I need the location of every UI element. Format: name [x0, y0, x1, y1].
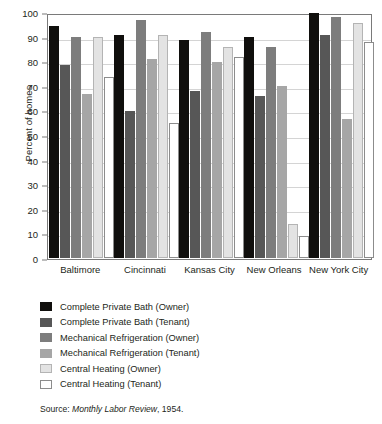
y-axis-tick-label: 30 — [27, 181, 38, 191]
legend-swatch — [40, 318, 52, 327]
legend-item: Complete Private Bath (Owner) — [40, 299, 320, 315]
bar — [158, 35, 168, 258]
bar-group — [49, 15, 114, 258]
bar — [179, 40, 189, 258]
source-suffix: , 1954. — [157, 404, 183, 414]
bar — [60, 65, 70, 258]
bar-group — [179, 15, 244, 258]
bar — [49, 26, 59, 258]
bar — [93, 37, 103, 258]
bar — [277, 86, 287, 258]
bar — [201, 32, 211, 258]
legend-label: Mechanical Refrigeration (Tenant) — [60, 348, 200, 358]
bar — [125, 111, 135, 258]
legend-item: Complete Private Bath (Tenant) — [40, 315, 320, 331]
legend-swatch — [40, 364, 52, 373]
y-axis-tick-label: 10 — [27, 231, 38, 241]
source-publication: Monthly Labor Review — [72, 404, 157, 414]
legend-swatch — [40, 380, 52, 389]
legend-swatch — [40, 349, 52, 358]
legend-label: Complete Private Bath (Owner) — [60, 302, 189, 312]
bar — [147, 59, 157, 258]
bar — [223, 47, 233, 258]
bar — [309, 13, 319, 258]
x-axis-tick-label: Baltimore — [49, 264, 111, 292]
bar — [353, 23, 363, 258]
legend-item: Mechanical Refrigeration (Owner) — [40, 330, 320, 346]
bar — [299, 236, 309, 258]
y-axis-tick-labels: 0102030405060708090100 — [0, 14, 47, 260]
x-axis-tick-labels: BaltimoreCincinnatiKansas CityNew Orlean… — [48, 264, 371, 292]
y-axis-tick-label: 90 — [27, 34, 38, 44]
y-axis-tick-label: 70 — [27, 83, 38, 93]
bar-chart: Percent of homes 0102030405060708090100 … — [0, 0, 382, 292]
y-axis-tick-label: 40 — [27, 157, 38, 167]
bar — [320, 35, 330, 258]
x-axis-tick-label: Cincinnati — [114, 264, 176, 292]
bar — [288, 224, 298, 258]
legend-swatch — [40, 302, 52, 311]
bar — [342, 119, 352, 258]
bar — [364, 42, 374, 258]
bar — [234, 57, 244, 258]
bar-group — [309, 15, 374, 258]
bar-group — [114, 15, 179, 258]
bar-groups — [49, 15, 370, 258]
y-axis-tick-label: 80 — [27, 58, 38, 68]
legend-item: Mechanical Refrigeration (Tenant) — [40, 346, 320, 362]
bar — [244, 37, 254, 258]
source-prefix: Source: — [40, 404, 72, 414]
bar — [114, 35, 124, 258]
x-axis-tick-label: New York City — [308, 264, 370, 292]
legend-label: Central Heating (Owner) — [60, 364, 161, 374]
source-note: Source: Monthly Labor Review, 1954. — [40, 404, 183, 414]
bar — [255, 96, 265, 258]
legend-label: Complete Private Bath (Tenant) — [60, 317, 190, 327]
legend-item: Central Heating (Tenant) — [40, 377, 320, 393]
legend: Complete Private Bath (Owner)Complete Pr… — [40, 299, 320, 392]
x-axis-tick-label: New Orleans — [243, 264, 305, 292]
bar — [212, 62, 222, 258]
bar — [266, 47, 276, 258]
plot-area — [47, 14, 372, 260]
y-axis-tick-label: 0 — [33, 255, 38, 265]
bar-group — [244, 15, 309, 258]
y-axis-tick-label: 60 — [27, 108, 38, 118]
y-axis-tick-label: 20 — [27, 206, 38, 216]
y-axis-tick-label: 50 — [27, 132, 38, 142]
bar — [104, 77, 114, 258]
bar — [190, 91, 200, 258]
bar — [71, 37, 81, 258]
bar — [331, 17, 341, 258]
legend-item: Central Heating (Owner) — [40, 361, 320, 377]
y-axis-tick-label: 100 — [22, 9, 38, 19]
legend-label: Mechanical Refrigeration (Owner) — [60, 333, 199, 343]
x-axis-tick-label: Kansas City — [178, 264, 240, 292]
bar — [169, 123, 179, 258]
bar — [136, 20, 146, 258]
legend-swatch — [40, 333, 52, 342]
legend-label: Central Heating (Tenant) — [60, 379, 161, 389]
bar — [82, 94, 92, 258]
